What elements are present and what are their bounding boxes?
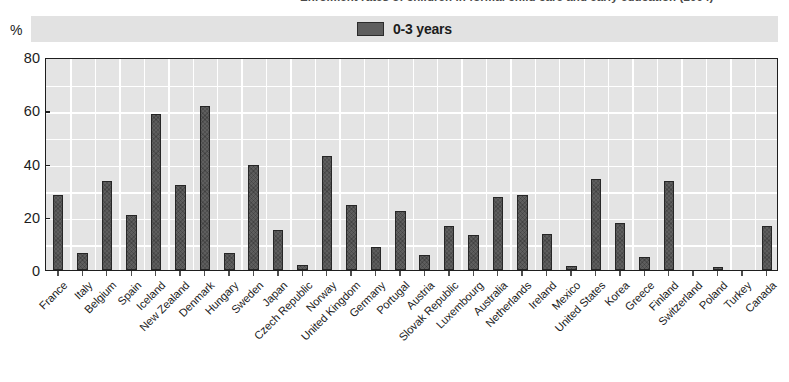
x-axis-tick-mark — [106, 271, 107, 276]
bar — [566, 266, 577, 270]
y-axis-tick-label: 60 — [6, 103, 40, 119]
y-axis-tick-label: 0 — [6, 263, 40, 279]
x-axis-tick-mark — [766, 271, 767, 276]
chart-figure: Enrolment rates of children in formal ch… — [0, 0, 789, 382]
x-axis-tick-mark — [521, 271, 522, 276]
x-axis-tick-mark — [350, 271, 351, 276]
bar — [224, 253, 235, 270]
bar — [77, 253, 88, 270]
x-axis-tick-mark — [497, 271, 498, 276]
y-axis-tick-label: 20 — [6, 210, 40, 226]
x-axis-tick-mark — [131, 271, 132, 276]
y-axis-tick-mark — [45, 111, 50, 113]
y-axis-tick-mark — [45, 218, 50, 220]
x-axis-tick-mark — [668, 271, 669, 276]
bar — [419, 255, 430, 270]
x-axis-tick-mark — [228, 271, 229, 276]
legend-item-label: 0-3 years — [393, 21, 452, 37]
bar — [639, 257, 650, 270]
bar — [371, 247, 382, 270]
bar — [200, 106, 211, 270]
bar — [664, 181, 675, 270]
x-axis-tick-mark — [473, 271, 474, 276]
bar — [395, 211, 406, 270]
x-axis-tick-mark — [717, 271, 718, 276]
x-axis-tick-mark — [595, 271, 596, 276]
bar — [493, 197, 504, 270]
bar — [444, 226, 455, 270]
x-axis-tick-mark — [326, 271, 327, 276]
x-axis-tick-mark — [399, 271, 400, 276]
bar — [591, 179, 602, 270]
plot-area — [45, 58, 778, 271]
x-axis-tick-mark — [644, 271, 645, 276]
y-axis-tick-mark — [45, 165, 50, 167]
bar — [542, 234, 553, 270]
bar — [762, 226, 773, 270]
bar — [151, 114, 162, 270]
bars-group — [46, 59, 777, 270]
x-axis-tick-mark — [82, 271, 83, 276]
x-axis-tick-label: France — [37, 279, 70, 312]
bar — [53, 195, 64, 270]
x-axis-tick-mark — [204, 271, 205, 276]
legend-item-0-3-years: 0-3 years — [357, 21, 452, 37]
x-axis-tick-mark — [179, 271, 180, 276]
bar — [273, 230, 284, 270]
x-axis-tick-mark — [692, 271, 693, 276]
x-axis-tick-mark — [424, 271, 425, 276]
bar — [175, 185, 186, 270]
bar — [102, 181, 113, 270]
y-axis-tick-label: 80 — [6, 50, 40, 66]
y-axis-unit-label: % — [10, 22, 22, 38]
x-axis-tick-mark — [57, 271, 58, 276]
bar — [248, 165, 259, 270]
bar — [517, 195, 528, 270]
x-axis-tick-mark — [253, 271, 254, 276]
bar — [297, 265, 308, 270]
legend-swatch-icon — [357, 22, 384, 36]
x-axis-tick-mark — [155, 271, 156, 276]
x-axis-tick-mark — [302, 271, 303, 276]
x-axis-tick-mark — [277, 271, 278, 276]
y-axis: 020406080 — [0, 58, 40, 271]
x-axis-tick-mark — [546, 271, 547, 276]
x-axis-tick-mark — [741, 271, 742, 276]
bar — [615, 223, 626, 270]
x-axis-tick-mark — [375, 271, 376, 276]
legend: 0-3 years — [31, 16, 778, 42]
x-axis-tick-mark — [448, 271, 449, 276]
bar — [126, 215, 137, 270]
bar — [322, 156, 333, 270]
bar — [468, 235, 479, 270]
chart-title-clipped: Enrolment rates of children in formal ch… — [0, 0, 789, 12]
x-axis-tick-mark — [619, 271, 620, 276]
bar — [346, 205, 357, 270]
bar — [713, 267, 724, 270]
y-axis-tick-label: 40 — [6, 157, 40, 173]
x-axis-tick-mark — [570, 271, 571, 276]
chart-title: Enrolment rates of children in formal ch… — [300, 0, 713, 3]
